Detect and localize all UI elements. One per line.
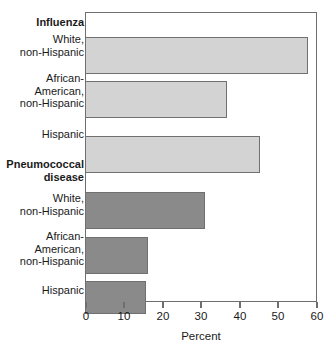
tick-mark-10: [123, 302, 125, 308]
group-label-influenza: Influenza: [0, 16, 84, 29]
tick-label-40: 40: [225, 310, 255, 322]
tick-mark-0: [85, 302, 87, 308]
category-label-pneumococcal-african-american: African- American, non-Hispanic: [0, 230, 84, 268]
tick-mark-20: [162, 302, 164, 308]
tick-mark-40: [239, 302, 241, 308]
category-label-influenza-white: White, non-Hispanic: [0, 33, 84, 58]
tick-mark-30: [200, 302, 202, 308]
category-label-pneumococcal-hispanic: Hispanic: [0, 284, 84, 297]
group-label-pneumococcal-disease: Pneumococcal disease: [0, 158, 84, 183]
tick-label-10: 10: [109, 310, 139, 322]
bar-pneumococcal-african-american: [85, 237, 148, 274]
tick-label-0: 0: [71, 310, 101, 322]
category-label-influenza-hispanic: Hispanic: [0, 128, 84, 141]
bar-influenza-hispanic: [85, 136, 260, 173]
bar-influenza-african-american: [85, 81, 227, 118]
tick-label-60: 60: [302, 310, 332, 322]
bar-influenza-white: [85, 37, 308, 74]
tick-mark-60: [316, 302, 318, 308]
bar-pneumococcal-white: [85, 192, 205, 229]
bar-chart: Influenza White, non-Hispanic African- A…: [0, 0, 334, 354]
bars-layer: [85, 12, 317, 302]
category-label-influenza-african-american: African- American, non-Hispanic: [0, 72, 84, 110]
x-axis-title: Percent: [85, 330, 317, 342]
tick-mark-50: [277, 302, 279, 308]
tick-label-30: 30: [186, 310, 216, 322]
category-label-pneumococcal-white: White, non-Hispanic: [0, 192, 84, 217]
tick-label-20: 20: [148, 310, 178, 322]
tick-label-50: 50: [263, 310, 293, 322]
